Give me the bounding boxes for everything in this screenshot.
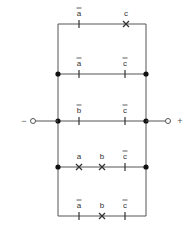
contact-labels: acacbcabcabc [77, 8, 129, 210]
junction-dot [55, 164, 60, 169]
positive-sign: + [177, 116, 182, 126]
contact-label: c [123, 59, 127, 68]
negative-terminal [31, 119, 36, 124]
contact-label: a [77, 201, 82, 210]
contact-label: b [100, 152, 105, 161]
negative-sign: − [21, 116, 26, 126]
contact-label: c [124, 9, 128, 18]
contact-label: b [77, 106, 82, 115]
contact-label: b [100, 201, 105, 210]
contact-label: a [77, 9, 82, 18]
junction-dot [143, 164, 148, 169]
positive-terminal [166, 119, 171, 124]
contact-label: a [77, 152, 82, 161]
contacts [76, 20, 129, 220]
contact-label: c [123, 152, 127, 161]
contact-label: c [123, 106, 127, 115]
contact-label: c [123, 201, 127, 210]
switching-circuit-diagram: acacbcabcabc −+ [0, 0, 186, 229]
junction-dot [55, 71, 60, 76]
junction-dot [143, 71, 148, 76]
wires [55, 24, 148, 216]
contact-label: a [77, 59, 82, 68]
